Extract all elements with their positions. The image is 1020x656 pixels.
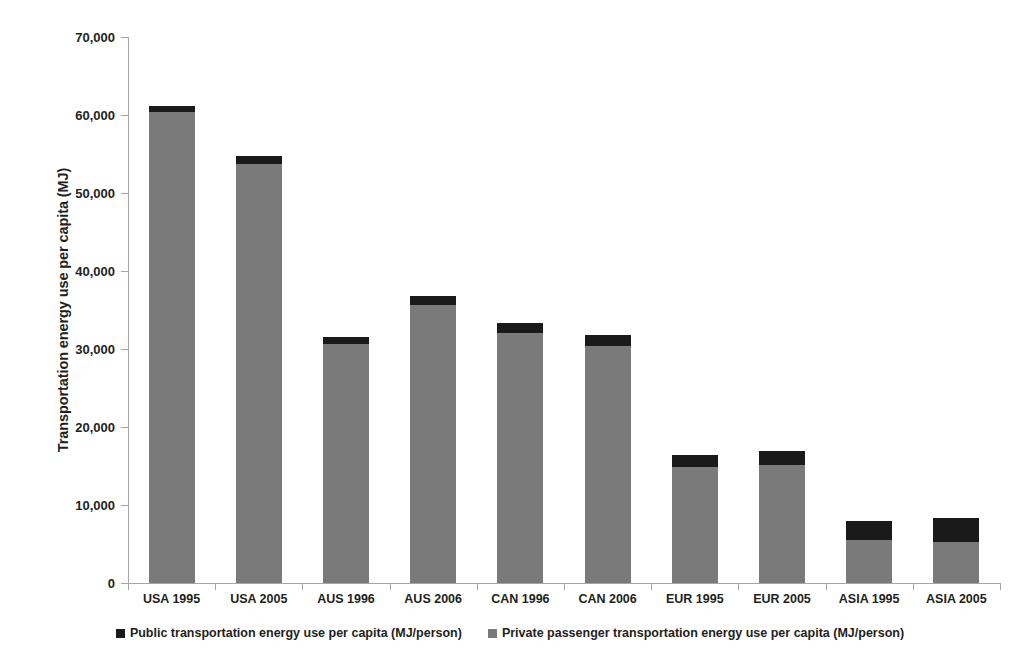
bar-asia-1995 <box>846 521 892 583</box>
y-axis-line <box>128 37 129 584</box>
bar-usa-1995 <box>149 106 195 583</box>
y-tick-label: 20,000 <box>5 420 115 435</box>
x-tick-mark <box>302 583 303 590</box>
y-tick-label: 50,000 <box>5 186 115 201</box>
y-tick-mark <box>121 427 128 428</box>
legend-item-private[interactable]: Private passenger transportation energy … <box>488 626 904 640</box>
x-axis-label-usa-2005: USA 2005 <box>215 592 302 606</box>
x-tick-mark <box>913 583 914 590</box>
bar-segment-public <box>846 521 892 540</box>
bar-eur-2005 <box>759 451 805 583</box>
bar-segment-public <box>672 455 718 467</box>
bar-segment-public <box>410 296 456 305</box>
x-axis-label-aus-2006: AUS 2006 <box>390 592 477 606</box>
bar-aus-2006 <box>410 296 456 583</box>
y-tick-label: 30,000 <box>5 342 115 357</box>
bar-segment-private <box>933 542 979 583</box>
y-tick-mark <box>121 271 128 272</box>
bar-segment-private <box>149 112 195 583</box>
y-tick-label: 60,000 <box>5 108 115 123</box>
bar-segment-private <box>672 467 718 583</box>
y-tick-label: 10,000 <box>5 498 115 513</box>
chart-legend: Public transportation energy use per cap… <box>0 626 1020 640</box>
bar-segment-public <box>149 106 195 113</box>
x-tick-mark <box>215 583 216 590</box>
bar-segment-public <box>236 156 282 164</box>
x-axis-label-aus-1996: AUS 1996 <box>302 592 389 606</box>
bar-segment-private <box>497 333 543 583</box>
x-axis-label-eur-1995: EUR 1995 <box>651 592 738 606</box>
y-tick-mark <box>121 349 128 350</box>
y-tick-mark <box>121 583 128 584</box>
y-tick-mark <box>121 505 128 506</box>
bar-can-2006 <box>585 335 631 583</box>
y-tick-label: 70,000 <box>5 30 115 45</box>
y-tick-label: 40,000 <box>5 264 115 279</box>
bar-segment-public <box>323 337 369 344</box>
bar-asia-2005 <box>933 518 979 583</box>
bar-aus-1996 <box>323 337 369 583</box>
x-axis-label-usa-1995: USA 1995 <box>128 592 215 606</box>
x-axis-label-asia-2005: ASIA 2005 <box>913 592 1000 606</box>
bar-segment-public <box>497 323 543 333</box>
bar-segment-private <box>846 540 892 583</box>
x-tick-mark <box>564 583 565 590</box>
x-axis-label-can-2006: CAN 2006 <box>564 592 651 606</box>
y-tick-mark <box>121 115 128 116</box>
bar-segment-private <box>236 164 282 583</box>
bar-usa-2005 <box>236 156 282 583</box>
x-axis-label-asia-1995: ASIA 1995 <box>826 592 913 606</box>
bar-segment-public <box>759 451 805 465</box>
legend-label: Private passenger transportation energy … <box>502 626 904 640</box>
y-tick-mark <box>121 193 128 194</box>
x-axis-label-can-1996: CAN 1996 <box>477 592 564 606</box>
bar-segment-private <box>759 465 805 583</box>
bar-eur-1995 <box>672 455 718 583</box>
y-tick-mark <box>121 37 128 38</box>
legend-item-public[interactable]: Public transportation energy use per cap… <box>116 626 462 640</box>
x-tick-mark <box>651 583 652 590</box>
bar-segment-private <box>323 344 369 583</box>
x-axis-label-eur-2005: EUR 2005 <box>738 592 825 606</box>
bar-segment-public <box>933 518 979 541</box>
y-tick-label: 0 <box>5 576 115 591</box>
plot-area: 70,00060,00050,00040,00030,00020,00010,0… <box>128 37 1000 583</box>
x-tick-mark <box>1000 583 1001 590</box>
x-tick-mark <box>738 583 739 590</box>
bar-can-1996 <box>497 323 543 583</box>
x-tick-mark <box>390 583 391 590</box>
legend-swatch-icon <box>116 629 125 638</box>
x-tick-mark <box>128 583 129 590</box>
bar-chart: Transportation energy use per capita (MJ… <box>0 0 1020 656</box>
x-tick-mark <box>826 583 827 590</box>
legend-label: Public transportation energy use per cap… <box>130 626 462 640</box>
legend-swatch-icon <box>488 629 497 638</box>
bar-segment-private <box>410 305 456 583</box>
x-tick-mark <box>477 583 478 590</box>
bar-segment-public <box>585 335 631 346</box>
bar-segment-private <box>585 346 631 583</box>
